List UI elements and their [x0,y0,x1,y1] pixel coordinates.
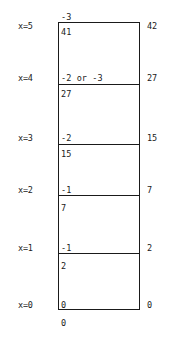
below-value-x3: 15 [61,150,71,159]
axis-label-x1: x=1 [18,244,54,253]
below-value-x2: 7 [61,204,66,213]
divider-line-x2 [58,195,140,196]
right-value-x2: 7 [147,186,171,195]
right-value-x1: 2 [147,244,171,253]
above-value-x5: -3 [61,13,71,22]
right-value-x3: 15 [147,134,171,143]
axis-label-x0: x=0 [18,301,54,310]
axis-label-x3: x=3 [18,134,54,143]
above-value-x4: -2 or -3 [61,74,103,83]
right-value-x5: 42 [147,22,171,31]
above-value-x0: 0 [61,301,66,310]
below-value-x0: 0 [61,319,66,328]
above-value-x2: -1 [61,186,71,195]
below-value-x4: 27 [61,90,71,99]
divider-line-x3 [58,144,140,145]
below-value-x5: 41 [61,28,71,37]
column-diagram: x=5 x=4 x=3 x=2 x=1 x=0 -3 -2 or -3 -2 -… [0,0,172,346]
below-value-x1: 2 [61,262,66,271]
axis-label-x4: x=4 [18,74,54,83]
axis-label-x2: x=2 [18,186,54,195]
column-outline [58,22,140,310]
divider-line-x1 [58,253,140,254]
divider-line-x4 [58,84,140,85]
right-value-x4: 27 [147,74,171,83]
axis-label-x5: x=5 [18,22,54,31]
above-value-x3: -2 [61,134,71,143]
right-value-x0: 0 [147,301,171,310]
above-value-x1: -1 [61,244,71,253]
